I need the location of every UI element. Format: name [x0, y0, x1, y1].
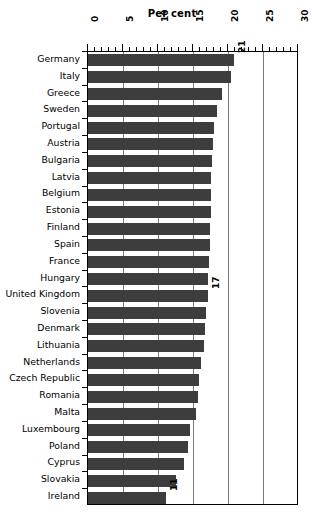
category-label: Hungary	[40, 273, 80, 283]
bar	[88, 256, 209, 268]
category-label: France	[49, 256, 80, 266]
bar	[88, 408, 196, 420]
bar	[88, 323, 205, 335]
category-tickmark	[82, 421, 87, 422]
category-label: Luxembourg	[22, 424, 80, 434]
category-tickmark	[82, 169, 87, 170]
category-tickmark	[82, 438, 87, 439]
major-tickmark	[192, 44, 193, 51]
x-axis-tickmarks	[87, 44, 299, 51]
category-label: Slovakia	[41, 474, 80, 484]
bar	[88, 223, 210, 235]
bar	[88, 391, 198, 403]
bar	[88, 374, 199, 386]
category-tickmark	[82, 135, 87, 136]
bar	[88, 206, 211, 218]
x-tick-label: 15	[196, 9, 205, 22]
x-axis-tick-labels: 051015202530	[0, 22, 318, 46]
category-tickmark	[82, 85, 87, 86]
category-label: Poland	[49, 441, 80, 451]
major-tickmark	[227, 44, 228, 51]
category-tickmark	[82, 118, 87, 119]
category-label: Austria	[47, 138, 80, 148]
major-tickmark	[122, 44, 123, 51]
x-tick-label: 0	[91, 16, 100, 22]
category-tickmark	[82, 471, 87, 472]
major-tickmark	[262, 44, 263, 51]
category-label: Lithuania	[37, 340, 80, 350]
bar	[88, 54, 234, 66]
x-tick-label: 30	[301, 9, 310, 22]
bar-value-label: 11	[170, 478, 179, 491]
category-tickmark	[82, 370, 87, 371]
bar	[88, 155, 212, 167]
category-label: Greece	[47, 88, 80, 98]
bar	[88, 172, 211, 184]
category-tickmark	[82, 202, 87, 203]
bar	[88, 424, 190, 436]
bar	[88, 475, 176, 487]
major-tickmark	[157, 44, 158, 51]
category-tickmark	[82, 253, 87, 254]
bar	[88, 122, 214, 134]
category-label: Slovenia	[40, 306, 80, 316]
category-tickmark	[82, 51, 87, 52]
category-tickmark	[82, 337, 87, 338]
category-tickmark	[82, 354, 87, 355]
category-tickmark	[82, 404, 87, 405]
plot-area: 211711	[87, 51, 298, 505]
category-label: Germany	[37, 54, 80, 64]
category-tickmark	[82, 186, 87, 187]
bar	[88, 138, 213, 150]
category-tickmark	[82, 270, 87, 271]
category-tickmark	[82, 236, 87, 237]
category-label: Malta	[54, 407, 80, 417]
bar	[88, 239, 210, 251]
category-label: United Kingdom	[5, 289, 80, 299]
bar	[88, 340, 204, 352]
category-label: Latvia	[52, 172, 80, 182]
category-tickmark	[82, 303, 87, 304]
category-tickmark	[82, 455, 87, 456]
category-label: Sweden	[43, 104, 80, 114]
category-label: Estonia	[46, 205, 80, 215]
bar-value-label: 17	[212, 276, 221, 289]
category-tickmark	[82, 488, 87, 489]
x-tick-label: 20	[231, 9, 240, 22]
bar	[88, 71, 231, 83]
category-label: Belgium	[42, 188, 80, 198]
category-label: Romania	[39, 390, 80, 400]
bar	[88, 273, 208, 285]
category-tickmark	[82, 101, 87, 102]
category-label: Ireland	[48, 491, 80, 501]
category-axis: GermanyItalyGreeceSwedenPortugalAustriaB…	[0, 51, 87, 505]
bar	[88, 492, 166, 504]
category-tickmark	[82, 68, 87, 69]
bar-chart: Per cent 051015202530 211711 GermanyItal…	[0, 0, 318, 523]
category-label: Finland	[47, 222, 80, 232]
category-tickmark	[82, 219, 87, 220]
category-tickmark	[82, 286, 87, 287]
bar	[88, 189, 211, 201]
category-label: Italy	[60, 71, 80, 81]
bar-series: 211711	[88, 52, 297, 504]
category-tickmark	[82, 320, 87, 321]
category-label: Czech Republic	[9, 373, 80, 383]
bar	[88, 307, 206, 319]
major-tickmark	[297, 44, 298, 51]
category-label: Spain	[54, 239, 80, 249]
category-tickmark	[82, 152, 87, 153]
category-tickmark	[82, 387, 87, 388]
bar	[88, 290, 208, 302]
bar	[88, 458, 184, 470]
bar	[88, 441, 188, 453]
category-label: Denmark	[37, 323, 80, 333]
category-label: Cyprus	[48, 457, 80, 467]
bar	[88, 88, 222, 100]
x-tick-label: 10	[161, 9, 170, 22]
category-label: Bulgaria	[41, 155, 80, 165]
bar	[88, 357, 201, 369]
bar	[88, 105, 217, 117]
bar-value-label: 21	[238, 41, 247, 54]
major-tickmark	[87, 44, 88, 51]
